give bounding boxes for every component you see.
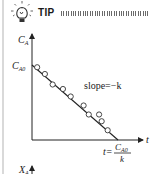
intercept-label: CA0 xyxy=(12,60,25,72)
x-intercept-prefix: t= xyxy=(103,146,113,157)
next-axis-label: XA xyxy=(18,164,29,174)
y-axis-label: CA xyxy=(18,34,29,46)
slope-label: slope=−k xyxy=(84,80,121,91)
data-point xyxy=(35,65,40,70)
data-point xyxy=(96,112,101,117)
data-point xyxy=(50,82,55,87)
zero-order-plot: CA CA0 t slope=−k t= CA0 k XA xyxy=(0,0,154,174)
data-point xyxy=(86,112,91,117)
x-axis-label: t xyxy=(146,134,149,145)
data-point xyxy=(105,128,110,133)
data-point xyxy=(99,119,104,124)
data-points xyxy=(35,65,111,133)
data-point xyxy=(42,71,47,76)
data-point xyxy=(60,86,65,91)
data-point xyxy=(68,94,73,99)
data-point xyxy=(81,103,86,108)
x-intercept-numerator: CA0 xyxy=(115,142,128,153)
x-intercept-denominator: k xyxy=(120,154,125,164)
